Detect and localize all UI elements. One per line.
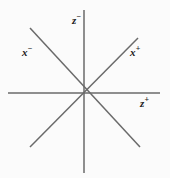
label-x-plus-sign: + (136, 44, 141, 53)
axis-diagram: z− x− x+ z+ (0, 0, 170, 178)
diagonal-x-minus-axis-line (30, 28, 140, 147)
label-x-plus: x+ (130, 45, 140, 58)
label-x-minus: x− (22, 45, 32, 58)
label-x-minus-sign: − (28, 44, 33, 53)
label-z-minus-sign: − (76, 12, 81, 21)
label-z-plus: z+ (140, 96, 149, 109)
axis-lines-group (0, 0, 170, 178)
label-z-plus-sign: + (144, 95, 149, 104)
label-z-minus: z− (72, 13, 81, 26)
